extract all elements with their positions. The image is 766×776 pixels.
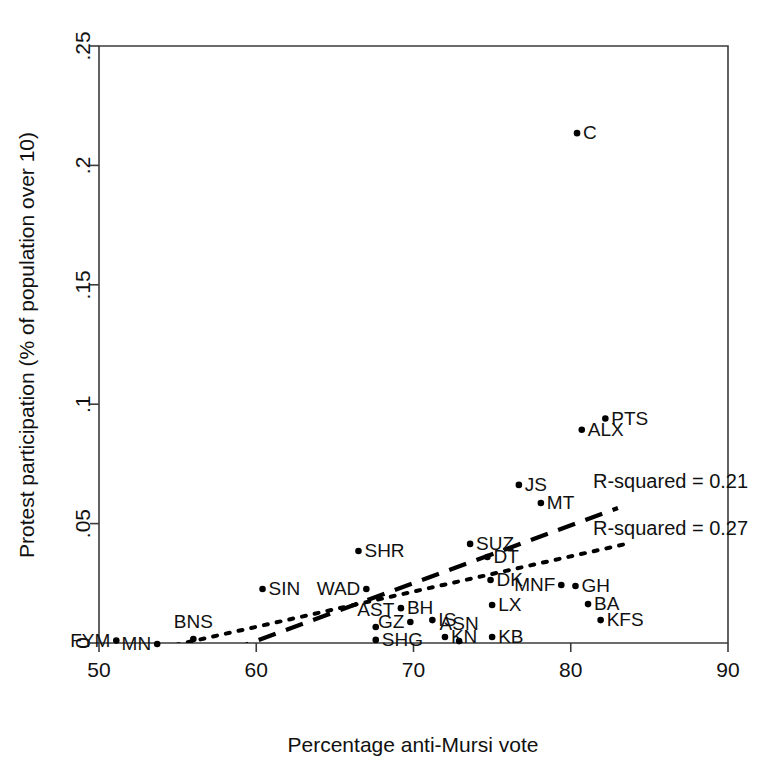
x-axis-title: Percentage anti-Mursi vote (288, 733, 539, 756)
data-point-label: BNS (174, 611, 213, 632)
data-point-marker (489, 634, 496, 641)
data-point-marker (487, 577, 494, 584)
data-point-marker (398, 605, 405, 612)
data-point-marker (574, 130, 581, 137)
data-point-label: ASN (440, 613, 479, 634)
data-point-label: SHR (364, 540, 404, 561)
x-tick-label: 90 (716, 658, 739, 681)
data-point-marker (597, 617, 604, 624)
data-point-marker (372, 637, 379, 644)
y-axis-title: Protest participation (% of population o… (15, 132, 38, 558)
data-point-marker (429, 617, 436, 624)
data-point-marker (467, 541, 474, 548)
x-tick-label: 70 (402, 658, 425, 681)
data-point-marker (572, 583, 579, 590)
data-point-label: LX (498, 594, 522, 615)
data-point-marker (407, 619, 414, 626)
data-point-marker (516, 482, 523, 489)
y-tick-label: .25 (71, 31, 94, 60)
data-point-marker (578, 426, 585, 433)
data-point-marker (190, 636, 197, 643)
y-tick-label: .1 (71, 395, 94, 413)
data-point-marker (113, 637, 120, 644)
data-point-marker (484, 554, 491, 561)
data-point-label: MNF (514, 574, 555, 595)
data-point-marker (355, 548, 362, 555)
annotation-dashed: R-squared = 0.21 (593, 470, 748, 492)
x-tick-label: 50 (87, 658, 110, 681)
x-tick-label: 60 (245, 658, 268, 681)
y-tick-label: .15 (71, 270, 94, 299)
data-point-marker (363, 586, 370, 593)
chart-canvas: 5060708090 0.05.1.15.2.25 FYMMNBNSSINSHR… (0, 0, 766, 776)
data-point-label: PTS (611, 408, 648, 429)
data-point-marker (538, 500, 545, 507)
y-tick-label: .05 (71, 509, 94, 538)
data-point-marker (259, 586, 266, 593)
data-point-label: SHG (382, 629, 423, 650)
data-point-marker (585, 601, 592, 608)
scatter-plot-figure: 5060708090 0.05.1.15.2.25 FYMMNBNSSINSHR… (0, 0, 766, 776)
y-tick-label: .2 (71, 157, 94, 175)
data-point-label: FYM (70, 630, 110, 651)
data-point-marker (602, 415, 609, 422)
data-point-marker (456, 638, 463, 645)
data-point-marker (442, 634, 449, 641)
data-point-label: KFS (607, 609, 644, 630)
data-point-marker (489, 602, 496, 609)
data-point-marker (558, 582, 565, 589)
data-point-label: KB (498, 626, 523, 647)
data-point-label: MT (547, 492, 575, 513)
x-tick-label: 80 (559, 658, 582, 681)
data-point-label: SIN (269, 578, 301, 599)
chart-background (0, 0, 766, 776)
data-point-label: BH (407, 597, 433, 618)
data-point-label: C (583, 122, 597, 143)
data-point-label: GZ (378, 611, 405, 632)
data-point-label: MN (122, 633, 152, 654)
data-point-label: DT (493, 546, 519, 567)
data-point-marker (154, 641, 161, 648)
data-point-label: JS (525, 474, 547, 495)
data-point-label: WAD (317, 578, 361, 599)
annotation-dotted: R-squared = 0.27 (593, 517, 748, 539)
